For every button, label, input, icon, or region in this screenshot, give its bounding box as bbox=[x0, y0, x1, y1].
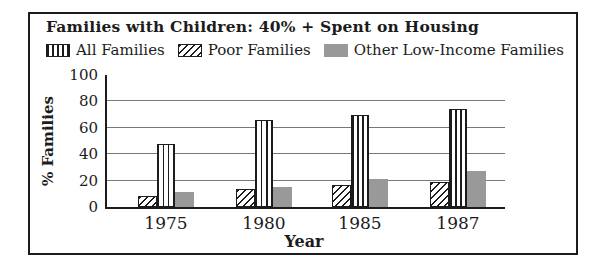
chart-title: Families with Children: 40% + Spent on H… bbox=[46, 17, 479, 36]
bar-all-families-1975 bbox=[157, 144, 175, 207]
legend-label: Other Low-Income Families bbox=[354, 41, 564, 59]
chart-legend: All FamiliesPoor FamiliesOther Low-Incom… bbox=[46, 41, 577, 59]
bar-all-families-1985 bbox=[351, 115, 369, 207]
bar-poor-families-1975 bbox=[138, 196, 157, 207]
bar-other-low-income-families-1987 bbox=[467, 171, 486, 207]
gridline-60 bbox=[107, 127, 505, 128]
y-tick-label-0: 0 bbox=[56, 197, 98, 217]
chart-figure: Families with Children: 40% + Spent on H… bbox=[0, 0, 607, 275]
legend-item-all-families: All Families bbox=[46, 41, 165, 59]
y-tick-label-60: 60 bbox=[56, 118, 98, 138]
legend-item-other-low-income-families: Other Low-Income Families bbox=[324, 41, 564, 59]
x-tick-label-1985: 1985 bbox=[315, 213, 405, 233]
y-axis-label: % Families bbox=[39, 73, 57, 209]
legend-label: All Families bbox=[76, 41, 165, 59]
plot-area: 0204060801001975198019851987 bbox=[105, 75, 505, 209]
legend-swatch-diagonal-stripes bbox=[178, 44, 202, 57]
legend-swatch-solid-gray bbox=[324, 44, 348, 57]
x-tick-label-1987: 1987 bbox=[413, 213, 503, 233]
y-tick-label-100: 100 bbox=[56, 65, 98, 85]
bar-other-low-income-families-1985 bbox=[369, 179, 388, 207]
x-axis-label: Year bbox=[105, 232, 503, 251]
bar-poor-families-1987 bbox=[430, 182, 449, 207]
bar-poor-families-1980 bbox=[236, 189, 255, 207]
legend-label: Poor Families bbox=[208, 41, 311, 59]
y-tick-label-20: 20 bbox=[56, 171, 98, 191]
gridline-80 bbox=[107, 100, 505, 101]
x-tick-label-1975: 1975 bbox=[121, 213, 211, 233]
bar-other-low-income-families-1980 bbox=[273, 187, 292, 207]
legend-swatch-vertical-stripes bbox=[46, 44, 70, 57]
bar-all-families-1987 bbox=[449, 109, 467, 207]
bar-poor-families-1985 bbox=[332, 185, 351, 207]
legend-item-poor-families: Poor Families bbox=[178, 41, 311, 59]
bar-other-low-income-families-1975 bbox=[175, 192, 194, 207]
x-tick-label-1980: 1980 bbox=[219, 213, 309, 233]
chart-frame: Families with Children: 40% + Spent on H… bbox=[28, 12, 578, 255]
y-tick-label-40: 40 bbox=[56, 144, 98, 164]
bar-all-families-1980 bbox=[255, 120, 273, 207]
y-tick-label-80: 80 bbox=[56, 91, 98, 111]
